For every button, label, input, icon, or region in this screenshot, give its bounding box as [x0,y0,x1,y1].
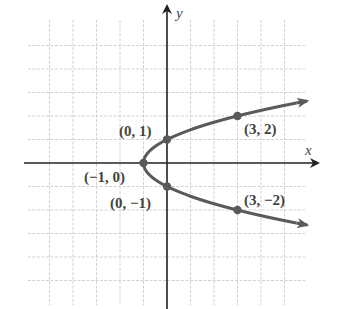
data-point [233,206,241,214]
data-point [233,112,241,120]
x-axis-label: x [304,142,312,158]
label-point-3-2: (3, 2) [244,121,277,138]
label-point-0-1: (0, 1) [119,123,152,140]
label-point-0-m1: (0, −1) [110,195,151,212]
data-point [163,135,171,143]
label-point-vertex: (−1, 0) [84,169,125,186]
label-point-3-m2: (3, −2) [244,192,285,209]
y-axis-label: y [174,5,183,21]
data-point [163,182,171,190]
parabola-graph: y x (0, 1) (−1, 0) (0, −1) (3, 2) (3, −2… [0,0,342,309]
curve-arrow-lower [296,223,307,225]
curve-arrow-upper [296,101,307,103]
graph-canvas: y x (0, 1) (−1, 0) (0, −1) (3, 2) (3, −2… [0,0,342,309]
data-point [139,159,147,167]
